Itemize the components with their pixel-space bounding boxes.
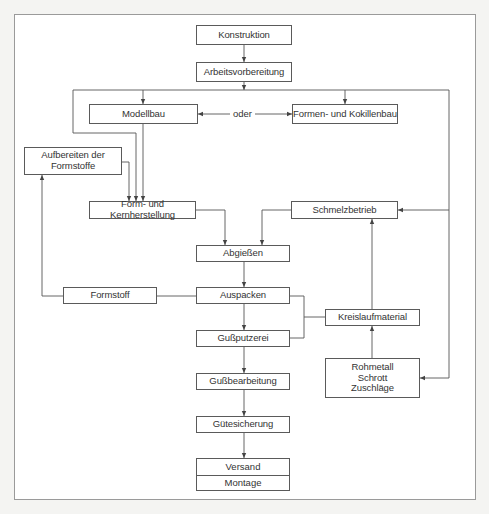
node-kreislaufmaterial: Kreislaufmaterial [325, 309, 420, 326]
node-label: Gußbearbeitung [209, 376, 276, 387]
node-label-line: Zuschläge [351, 383, 394, 394]
node-gussputzerei: Gußputzerei [196, 330, 290, 347]
node-label: Formen- und Kokillenbau [293, 109, 397, 120]
node-label: Schmelzbetrieb [312, 205, 376, 216]
node-schmelzbetrieb: Schmelzbetrieb [291, 201, 398, 219]
node-formenbau: Formen- und Kokillenbau [292, 104, 398, 124]
node-label: Kreislaufmaterial [338, 312, 407, 323]
node-label: Gußputzerei [217, 333, 268, 344]
node-label: Abgießen [223, 248, 263, 259]
node-montage: Montage [197, 475, 289, 491]
node-versand: Versand [197, 459, 289, 475]
node-gussbearbeitung: Gußbearbeitung [196, 373, 290, 390]
node-label-line: Rohmetall [352, 362, 394, 373]
node-label: Modellbau [122, 109, 165, 120]
node-auspacken: Auspacken [196, 287, 290, 304]
node-label: Auspacken [220, 290, 266, 301]
node-label: Konstruktion [218, 30, 270, 41]
node-konstruktion: Konstruktion [196, 25, 292, 45]
node-label: Gütesicherung [213, 419, 274, 430]
node-label: Arbeitsvorbereitung [204, 67, 284, 78]
node-rohmetall-schrott-zuschlaege: Rohmetall Schrott Zuschläge [325, 358, 420, 398]
node-label: Formstoff [90, 290, 129, 301]
node-aufbereiten-formstoffe: Aufbereiten der Formstoffe [24, 147, 122, 175]
node-formstoff: Formstoff [63, 287, 157, 304]
node-label: Form- und Kernherstellung [90, 199, 195, 221]
node-modellbau: Modellbau [89, 104, 198, 124]
node-form-kernherstellung: Form- und Kernherstellung [89, 201, 196, 219]
node-abgiessen: Abgießen [196, 245, 290, 262]
oder-label: oder [230, 108, 255, 119]
node-versand-montage: Versand Montage [196, 458, 290, 491]
node-label-line: Formstoffe [51, 161, 95, 172]
node-arbeitsvorbereitung: Arbeitsvorbereitung [196, 62, 292, 82]
node-guetesicherung: Gütesicherung [196, 416, 290, 433]
